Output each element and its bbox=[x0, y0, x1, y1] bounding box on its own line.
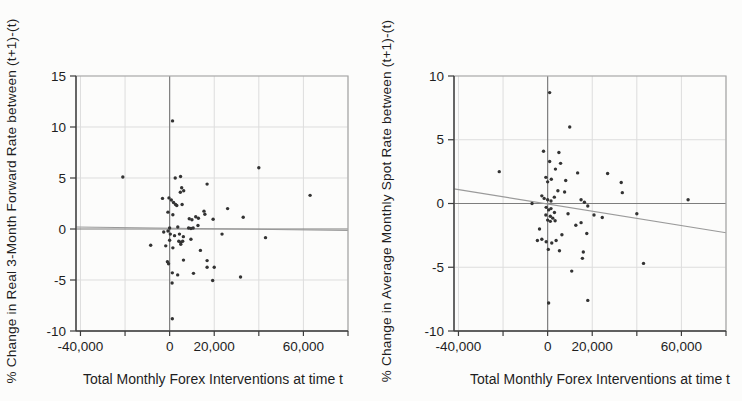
y-tick-label: 10 bbox=[51, 120, 66, 135]
data-point bbox=[642, 262, 645, 265]
data-point bbox=[550, 178, 553, 181]
plot-border bbox=[76, 76, 348, 331]
data-point bbox=[180, 203, 183, 206]
data-point bbox=[553, 195, 556, 198]
data-point bbox=[586, 204, 589, 207]
data-point bbox=[550, 241, 553, 244]
data-point bbox=[308, 194, 311, 197]
data-point bbox=[542, 197, 545, 200]
data-point bbox=[582, 250, 585, 253]
y-tick-label: -5 bbox=[54, 273, 66, 288]
x-tick-label: 60,000 bbox=[661, 339, 702, 354]
data-point bbox=[544, 240, 547, 243]
data-point bbox=[554, 239, 557, 242]
data-point bbox=[179, 175, 182, 178]
data-point bbox=[162, 230, 165, 233]
data-point bbox=[171, 246, 174, 249]
x-tick-label: -40,000 bbox=[436, 339, 482, 354]
data-point bbox=[553, 219, 556, 222]
data-point bbox=[171, 271, 174, 274]
data-point bbox=[178, 232, 181, 235]
data-point bbox=[182, 235, 185, 238]
data-point bbox=[560, 233, 563, 236]
data-point bbox=[544, 176, 547, 179]
data-point bbox=[205, 266, 208, 269]
data-point bbox=[176, 273, 179, 276]
data-point bbox=[161, 197, 164, 200]
spot-rate-plot-area: -40,000020,00060,0001050-5-10 bbox=[371, 0, 742, 401]
data-point bbox=[205, 182, 208, 185]
data-point bbox=[551, 216, 554, 219]
data-point bbox=[606, 172, 609, 175]
data-point bbox=[166, 229, 169, 232]
y-tick-label: -10 bbox=[46, 324, 66, 339]
x-tick-label: 0 bbox=[166, 339, 174, 354]
data-point bbox=[171, 119, 174, 122]
data-point bbox=[176, 225, 179, 228]
forward-rate-chart: % Change in Real 3-Month Forward Rate be… bbox=[0, 0, 371, 401]
data-point bbox=[181, 240, 184, 243]
data-point bbox=[556, 189, 559, 192]
figure-two-scatter-plots: % Change in Real 3-Month Forward Rate be… bbox=[0, 0, 742, 401]
y-tick-label: -10 bbox=[424, 324, 444, 339]
data-point bbox=[592, 213, 595, 216]
data-point bbox=[197, 217, 200, 220]
data-point bbox=[566, 212, 569, 215]
data-point bbox=[538, 227, 541, 230]
data-point bbox=[583, 201, 586, 204]
data-point bbox=[544, 206, 547, 209]
data-point bbox=[242, 216, 245, 219]
data-point bbox=[559, 162, 562, 165]
data-point bbox=[170, 281, 173, 284]
data-point bbox=[171, 317, 174, 320]
x-axis-title-spot: Total Monthly Forex Interventions at tim… bbox=[470, 371, 730, 387]
data-point bbox=[189, 238, 192, 241]
data-point bbox=[169, 232, 172, 235]
data-point bbox=[570, 269, 573, 272]
y-tick-label: 5 bbox=[58, 171, 66, 186]
data-point bbox=[202, 209, 205, 212]
data-point bbox=[546, 198, 549, 201]
data-point bbox=[190, 218, 193, 221]
data-point bbox=[544, 213, 547, 216]
data-point bbox=[601, 216, 604, 219]
data-point bbox=[182, 189, 185, 192]
data-point bbox=[167, 262, 170, 265]
trend-line bbox=[454, 189, 726, 233]
data-point bbox=[557, 151, 560, 154]
data-point bbox=[182, 258, 185, 261]
data-point bbox=[203, 213, 206, 216]
data-point bbox=[554, 167, 557, 170]
data-point bbox=[220, 232, 223, 235]
data-point bbox=[574, 223, 577, 226]
data-point bbox=[180, 186, 183, 189]
spot-rate-chart: % Change in Average Monthly Spot Rate be… bbox=[371, 0, 742, 401]
data-point bbox=[548, 160, 551, 163]
data-point bbox=[196, 224, 199, 227]
x-tick-label: -40,000 bbox=[58, 339, 104, 354]
y-tick-label: 15 bbox=[51, 69, 66, 84]
data-point bbox=[563, 190, 566, 193]
data-point bbox=[149, 244, 152, 247]
data-point bbox=[168, 239, 171, 242]
data-point bbox=[211, 218, 214, 221]
data-point bbox=[226, 207, 229, 210]
y-tick-label: 5 bbox=[436, 132, 444, 147]
data-point bbox=[536, 239, 539, 242]
x-tick-label: 0 bbox=[544, 339, 552, 354]
data-point bbox=[542, 150, 545, 153]
x-axis-title-forward: Total Monthly Forex Interventions at tim… bbox=[83, 371, 343, 387]
x-tick-label: 60,000 bbox=[283, 339, 324, 354]
y-tick-label: 10 bbox=[429, 69, 444, 84]
forward-rate-plot-area: -40,000020,00060,000151050-5-10 bbox=[0, 0, 371, 401]
data-point bbox=[257, 166, 260, 169]
data-point bbox=[530, 202, 533, 205]
data-point bbox=[549, 220, 552, 223]
data-point bbox=[686, 198, 689, 201]
data-point bbox=[211, 279, 214, 282]
data-point bbox=[239, 275, 242, 278]
data-point bbox=[579, 198, 582, 201]
y-tick-label: 0 bbox=[58, 222, 66, 237]
data-point bbox=[213, 266, 216, 269]
data-point bbox=[581, 257, 584, 260]
